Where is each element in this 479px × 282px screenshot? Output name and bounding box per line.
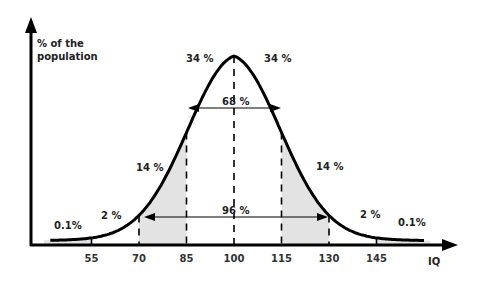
label-right-34: 34 % (264, 53, 291, 64)
tick-label-130: 130 (319, 253, 340, 264)
y-axis-label-line2: population (37, 51, 98, 62)
tick-label-115: 115 (271, 253, 292, 264)
label-left-14: 14 % (136, 162, 163, 173)
label-range-96: 96 % (222, 205, 249, 216)
label-right-14: 14 % (316, 161, 343, 172)
label-left-tail: 0.1% (54, 220, 82, 231)
tick-label-85: 85 (180, 253, 194, 264)
x-axis-label: IQ (428, 256, 440, 267)
range-68-arrow-right-icon (270, 104, 281, 112)
tick-label-70: 70 (132, 253, 146, 264)
tick-label-100: 100 (224, 253, 245, 264)
tick-label-145: 145 (366, 253, 387, 264)
label-range-68: 68 % (222, 96, 249, 107)
y-axis-label-line1: % of the (37, 38, 84, 49)
range-68-arrow-left-icon (188, 104, 199, 112)
label-left-2: 2 % (101, 210, 121, 221)
label-right-2: 2 % (360, 209, 380, 220)
y-axis-arrow-icon (25, 17, 37, 33)
iq-distribution-diagram: % of the population 0.1% 2 % 14 % 34 % 3… (0, 0, 479, 282)
label-right-tail: 0.1% (398, 217, 426, 228)
tick-label-55: 55 (85, 253, 99, 264)
label-left-34: 34 % (186, 53, 213, 64)
x-axis-arrow-icon (442, 239, 458, 251)
